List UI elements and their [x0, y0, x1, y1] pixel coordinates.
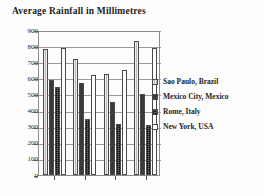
bar[interactable] [104, 74, 109, 175]
plot-area [38, 31, 160, 176]
bar[interactable] [110, 102, 115, 175]
legend-label: Sao Paulo, Brazil [163, 78, 218, 86]
bar-group [70, 30, 101, 175]
bar[interactable] [49, 80, 54, 175]
legend-item[interactable]: New York, USA [152, 119, 264, 134]
legend-swatch-icon [152, 109, 158, 115]
bar[interactable] [43, 49, 48, 175]
bar[interactable] [134, 41, 139, 175]
bar[interactable] [146, 125, 151, 175]
legend-item[interactable]: Rome, Italy [152, 104, 264, 119]
bar[interactable] [91, 75, 96, 175]
bar-group [100, 30, 131, 175]
legend-swatch-icon [152, 124, 158, 130]
legend-label: New York, USA [163, 123, 213, 131]
legend-label: Mexico City, Mexico [163, 93, 229, 101]
x-axis-tick-mark [85, 176, 86, 180]
x-axis-tick-mark [115, 176, 116, 180]
legend-swatch-icon [152, 94, 158, 100]
legend-item[interactable]: Sao Paulo, Brazil [152, 74, 264, 89]
bar-group [39, 30, 70, 175]
legend-label: Rome, Italy [163, 108, 201, 116]
chart-legend: Sao Paulo, BrazilMexico City, MexicoRome… [152, 74, 264, 134]
x-axis-tick-mark [146, 176, 147, 180]
x-axis-tick-mark [54, 176, 55, 180]
y-axis: 9008007006005004003002001000 [0, 0, 38, 196]
legend-swatch-icon [152, 79, 158, 85]
bar[interactable] [79, 83, 84, 175]
bar[interactable] [140, 94, 145, 175]
bar[interactable] [85, 119, 90, 175]
bar[interactable] [116, 124, 121, 175]
bar[interactable] [122, 70, 127, 175]
bar[interactable] [73, 59, 78, 175]
bar[interactable] [61, 48, 66, 175]
bar[interactable] [55, 87, 60, 175]
y-axis-tick-mark [34, 176, 38, 177]
legend-item[interactable]: Mexico City, Mexico [152, 89, 264, 104]
chart-container: Average Rainfall in Millimetres 90080070… [0, 0, 264, 196]
